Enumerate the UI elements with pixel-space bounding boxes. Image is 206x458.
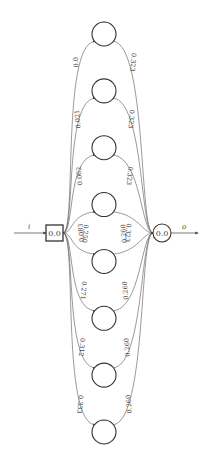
in-edge-weight-label: 0.062 bbox=[75, 166, 85, 185]
hidden-node[interactable] bbox=[92, 22, 116, 46]
in-edge-weight-label: 0.333 bbox=[75, 395, 85, 414]
hidden-node[interactable] bbox=[92, 420, 116, 444]
out-edge bbox=[113, 233, 153, 425]
hidden-node[interactable] bbox=[92, 79, 116, 103]
hidden-node[interactable] bbox=[92, 306, 116, 330]
input-node-label: 0.0 bbox=[48, 229, 61, 238]
out-edge-weight-label: 0.260 bbox=[124, 395, 134, 414]
hidden-node[interactable] bbox=[92, 193, 116, 217]
in-edge-weight-label: 0.0 bbox=[72, 57, 81, 68]
in-edge-weight-label: 0.312 bbox=[77, 338, 87, 357]
out-edge-weight-label: 0.323 bbox=[128, 53, 138, 72]
output-arrow-label: o bbox=[182, 223, 186, 231]
neural-network-diagram: 0.00.3230.0210.3230.0620.3230.0830.3230.… bbox=[0, 0, 206, 458]
hidden-nodes-group bbox=[92, 22, 116, 444]
out-edge-weight-label: 0.323 bbox=[125, 166, 135, 185]
hidden-node[interactable] bbox=[92, 249, 116, 273]
in-edge-weight-label: 0.250 bbox=[80, 224, 90, 243]
out-edge-weight-label: 0.323 bbox=[126, 109, 136, 128]
out-edge-weight-label: 0.260 bbox=[119, 224, 129, 243]
out-edge bbox=[113, 233, 153, 311]
edge-labels-group: 0.00.3230.0210.3230.0620.3230.0830.3230.… bbox=[72, 53, 138, 414]
hidden-node[interactable] bbox=[92, 136, 116, 160]
out-edge-weight-label: 0.260 bbox=[122, 338, 132, 357]
in-edge-weight-label: 0.021 bbox=[73, 109, 83, 128]
in-edge bbox=[63, 41, 95, 233]
in-edge-weight-label: 0.271 bbox=[79, 281, 89, 300]
input-arrow-label: i bbox=[28, 223, 30, 231]
output-node-label: 0.0 bbox=[156, 229, 169, 238]
out-edge-weight-label: 0.260 bbox=[121, 281, 131, 300]
hidden-node[interactable] bbox=[92, 363, 116, 387]
